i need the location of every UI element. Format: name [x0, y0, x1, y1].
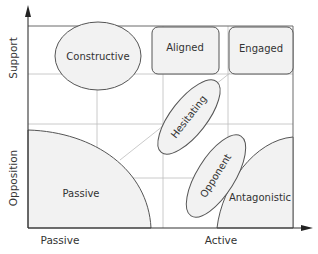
y-axis-label-low: Opposition — [7, 150, 19, 207]
region-passive — [28, 130, 151, 228]
label-antagonistic: Antagonistic — [229, 192, 291, 203]
y-axis-arrow-icon — [25, 5, 31, 17]
label-engaged: Engaged — [239, 43, 283, 54]
x-axis-arrow-icon — [301, 225, 313, 231]
x-axis-label-high: Active — [205, 234, 237, 246]
label-passive: Passive — [63, 188, 100, 199]
y-axis-label-high: Support — [7, 37, 19, 79]
attitude-matrix-diagram: Constructive Aligned Engaged Hesitating … — [0, 0, 318, 254]
label-constructive: Constructive — [66, 51, 129, 62]
x-axis-label-low: Passive — [41, 234, 80, 246]
label-aligned: Aligned — [166, 42, 204, 53]
